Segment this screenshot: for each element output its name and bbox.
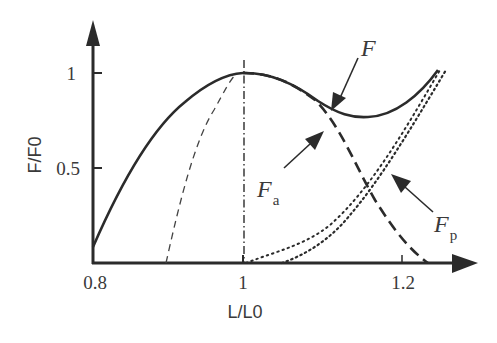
y-axis-arrow-icon (86, 20, 100, 46)
x-axis-title: L/L0 (227, 302, 262, 322)
x-tick-label-1: 1 (238, 272, 248, 293)
label-fp-main: F (433, 211, 449, 237)
chart-canvas: 1 0.5 0.8 1 1.2 F/F0 L/L0 F Fa Fp (0, 0, 497, 343)
annotation-arrow-fp (391, 174, 433, 212)
label-fa: Fa (256, 176, 280, 208)
y-axis (86, 20, 102, 264)
y-tick-label-0.5: 0.5 (56, 158, 80, 179)
curve-ascending-dashed (166, 74, 236, 263)
y-axis-title: F/F0 (25, 136, 45, 173)
label-fp-sub: p (450, 227, 458, 243)
y-tick-label-1: 1 (67, 63, 77, 84)
arrowhead-f-icon (331, 92, 346, 111)
curve-f-solid (93, 70, 438, 247)
x-axis (92, 254, 478, 273)
annotation-arrow-f (331, 58, 358, 111)
label-f: F (360, 35, 376, 61)
x-tick-label-0.8: 0.8 (83, 272, 107, 293)
x-tick-label-1.2: 1.2 (391, 272, 415, 293)
arrowhead-fa-icon (305, 131, 324, 150)
label-fp: Fp (433, 211, 457, 243)
curve-fp-dotted-2 (282, 70, 446, 263)
label-fa-main: F (256, 176, 272, 202)
label-fa-sub: a (273, 192, 280, 208)
x-axis-arrow-icon (452, 254, 478, 273)
annotation-arrow-fa (284, 131, 324, 168)
